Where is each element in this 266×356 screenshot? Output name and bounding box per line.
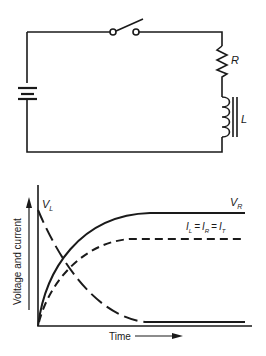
resistor-label: R — [231, 54, 239, 66]
battery-icon — [18, 88, 37, 99]
inductor-icon — [222, 97, 230, 137]
wire-bottom — [27, 100, 222, 152]
rl-circuit-figure: R L Voltage and current Time VL VR IL=IR… — [0, 0, 266, 356]
resistor-icon — [217, 46, 227, 97]
inductor-core-icon — [233, 97, 237, 137]
arrow-right-icon — [172, 333, 183, 339]
x-axis-label: Time — [109, 331, 131, 342]
wire-top-right — [139, 32, 222, 46]
current-label: IL=IR=IT — [186, 221, 227, 234]
y-axis-label: Voltage and current — [12, 218, 23, 305]
graph: Voltage and current Time VL VR IL=IR=IT — [12, 185, 252, 342]
switch-icon — [110, 19, 143, 35]
circuit-diagram — [18, 19, 237, 152]
vl-label: VL — [42, 198, 53, 212]
graph-axes — [38, 185, 252, 326]
current-curve — [39, 239, 245, 322]
inductor-label: L — [241, 113, 247, 125]
vr-label: VR — [230, 196, 242, 210]
arrow-up-icon — [26, 197, 32, 208]
